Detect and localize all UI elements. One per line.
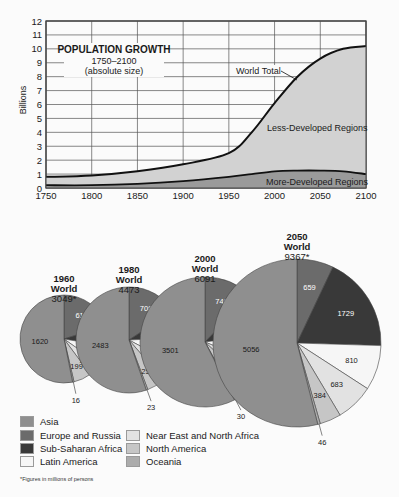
chart-title: POPULATION GROWTH <box>57 44 170 55</box>
slice-value-label: 659 <box>303 283 316 292</box>
oceania-leader-line <box>73 382 76 394</box>
legend-swatch-latin-america <box>20 456 34 467</box>
pie-total: 9367* <box>285 251 310 262</box>
less-developed-annotation: Less-Developed Regions <box>267 123 368 133</box>
y-tick-label: 5 <box>37 113 42 124</box>
world-total-annotation: World Total <box>236 66 281 76</box>
legend-item-latin-america: Latin America <box>20 455 98 467</box>
oceania-leader-line <box>319 424 322 436</box>
legend-swatch-europe <box>20 430 34 441</box>
more-developed-annotation: More-Developed Regions <box>266 177 369 187</box>
legend-swatch-oceania <box>126 456 140 467</box>
legend-swatch-north-america <box>126 443 140 454</box>
slice-value-label: 46 <box>318 438 326 447</box>
x-tick-label: 1750 <box>35 190 56 201</box>
x-tick-label: 1950 <box>218 190 239 201</box>
pie-total: 4473 <box>118 284 139 295</box>
y-axis-label: Billions <box>18 85 28 114</box>
legend-item-asia: Asia <box>20 415 58 427</box>
y-tick-label: 10 <box>31 43 42 54</box>
legend-label: Latin America <box>40 456 98 467</box>
y-tick-label: 7 <box>37 85 42 96</box>
legend-label: Asia <box>40 416 58 427</box>
chart-subtitle: 1750–2100 <box>91 56 136 66</box>
legend-item-europe: Europe and Russia <box>20 429 121 441</box>
slice-value-label: 3501 <box>162 346 179 355</box>
x-tick-label: 2000 <box>264 190 285 201</box>
legend-label: Europe and Russia <box>40 430 121 441</box>
legend-label: Oceania <box>146 456 181 467</box>
slice-value-label: 30 <box>237 412 245 421</box>
slice-value-label: 16 <box>72 396 80 405</box>
y-tick-label: 1 <box>37 169 42 180</box>
y-tick-label: 4 <box>37 127 42 138</box>
slice-value-label: 2483 <box>92 341 109 350</box>
pie-total: 6091 <box>194 273 215 284</box>
legend-swatch-near-east <box>126 430 140 441</box>
slice-value-label: 1729 <box>337 309 354 318</box>
slice-value-label: 683 <box>330 380 343 389</box>
legend-swatch-asia <box>20 416 34 427</box>
legend-item-sub-saharan: Sub-Saharan Africa <box>20 442 122 454</box>
legend-item-north-america: North America <box>126 442 206 454</box>
y-tick-label: 11 <box>32 29 42 40</box>
x-tick-label: 2050 <box>310 190 331 201</box>
population-growth-area-chart: 0123456789101112175018001850190019502000… <box>18 16 377 202</box>
population-growth-figure: 0123456789101112175018001850190019502000… <box>0 0 399 497</box>
slice-value-label: 1620 <box>32 337 49 346</box>
y-tick-label: 12 <box>31 16 42 27</box>
y-tick-label: 6 <box>37 99 42 110</box>
legend-item-near-east: Near East and North Africa <box>126 429 259 441</box>
footnote: *Figures in millions of persons <box>20 476 93 482</box>
y-tick-label: 8 <box>37 71 42 82</box>
oceania-leader-line <box>147 390 151 401</box>
y-tick-label: 2 <box>37 155 42 166</box>
y-tick-label: 3 <box>37 141 42 152</box>
y-tick-label: 9 <box>37 57 42 68</box>
legend-label: North America <box>146 443 206 454</box>
slice-value-label: 384 <box>313 391 326 400</box>
x-tick-label: 1900 <box>173 190 194 201</box>
x-tick-label: 1850 <box>127 190 148 201</box>
regional-population-pies: 6152272181541991616201960World3049*70838… <box>20 231 381 447</box>
slice-value-label: 199 <box>70 362 83 371</box>
chart-subtitle-2: (absolute size) <box>85 66 144 76</box>
legend-swatch-sub-saharan <box>20 443 34 454</box>
legend-item-oceania: Oceania <box>126 455 181 467</box>
x-tick-label: 2100 <box>355 190 376 201</box>
slice-value-label: 5056 <box>243 345 260 354</box>
legend-label: Near East and North Africa <box>146 430 259 441</box>
x-tick-label: 1800 <box>81 190 102 201</box>
slice-value-label: 23 <box>147 403 155 412</box>
legend-label: Sub-Saharan Africa <box>40 443 122 454</box>
slice-value-label: 810 <box>345 356 358 365</box>
pie-total: 3049* <box>52 293 77 304</box>
